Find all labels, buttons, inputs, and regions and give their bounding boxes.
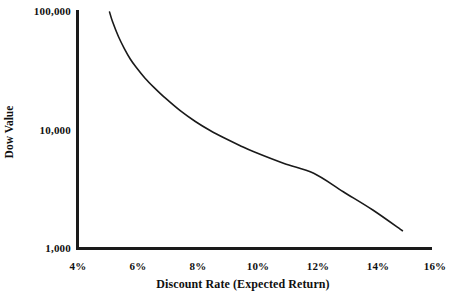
x-axis-line — [76, 247, 432, 250]
series-line-dow-value — [110, 12, 403, 231]
y-axis-title: Dow Value — [3, 92, 15, 172]
y-tick-1000: 1,000 — [45, 242, 71, 254]
x-tick-14pct: 14% — [367, 260, 390, 272]
y-tick-100000: 100,000 — [34, 5, 71, 17]
x-tick-16pct: 16% — [424, 260, 447, 272]
y-tick-10000: 10,000 — [40, 124, 71, 136]
x-tick-8pct: 8% — [190, 260, 207, 272]
x-tick-10pct: 10% — [247, 260, 270, 272]
x-tick-6pct: 6% — [130, 260, 147, 272]
chart-figure: 100,000 10,000 1,000 4% 6% 8% 10% 12% 14… — [0, 0, 452, 304]
x-tick-12pct: 12% — [307, 260, 330, 272]
x-axis-title-text: Discount Rate (Expected Return) — [156, 277, 329, 292]
x-tick-4pct: 4% — [70, 260, 87, 272]
x-axis-title: Discount Rate (Expected Return) — [0, 277, 452, 292]
y-axis-line — [76, 10, 79, 250]
